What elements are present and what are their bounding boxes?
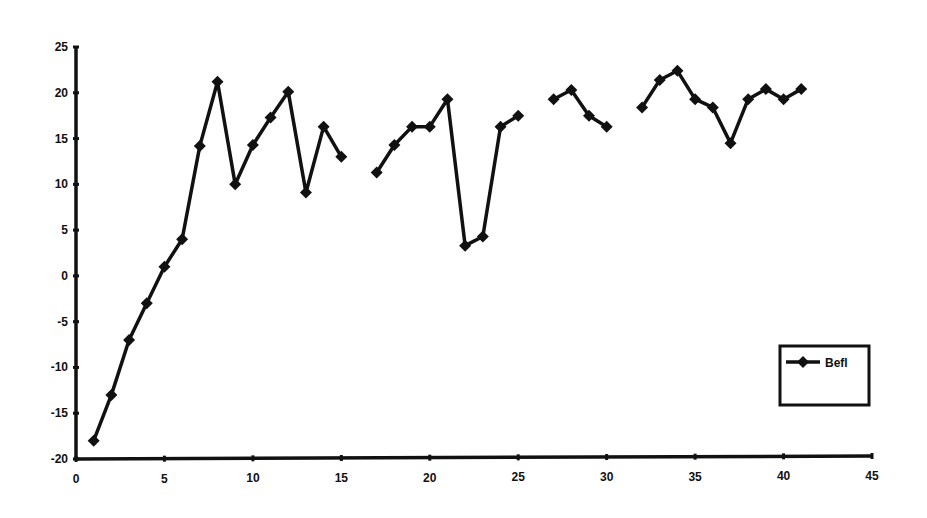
x-tick-label: 20 <box>423 471 437 485</box>
y-tick-label: 10 <box>55 177 69 191</box>
data-point-diamond-icon <box>194 140 206 152</box>
y-tick-label: 25 <box>55 40 69 54</box>
series-line <box>94 82 342 441</box>
series-line <box>642 71 801 143</box>
data-point-diamond-icon <box>123 334 135 346</box>
y-tick-label: -10 <box>51 360 69 374</box>
legend-label: Befl <box>825 356 848 370</box>
x-tick-label: 30 <box>600 470 614 484</box>
data-point-diamond-icon <box>105 389 117 401</box>
data-point-diamond-icon <box>141 297 153 309</box>
y-axis: 2520151050-5-10-15-20 <box>51 40 79 466</box>
series-befl <box>88 65 808 447</box>
y-tick-label: 5 <box>61 223 68 237</box>
x-tick-label: 5 <box>161 472 168 486</box>
legend-box <box>780 346 869 405</box>
y-tick-label: -5 <box>57 315 68 329</box>
y-tick-label: 0 <box>61 269 68 283</box>
x-axis: 051015202530354045 <box>73 453 879 486</box>
data-point-diamond-icon <box>707 101 719 113</box>
x-tick-label: 45 <box>865 469 879 483</box>
y-tick-label: -20 <box>51 452 69 466</box>
data-point-diamond-icon <box>548 93 560 105</box>
y-tick-label: -15 <box>51 406 69 420</box>
x-tick-label: 15 <box>335 471 349 485</box>
y-tick-label: 20 <box>55 86 69 100</box>
data-point-diamond-icon <box>477 231 489 243</box>
data-point-diamond-icon <box>724 137 736 149</box>
series-line <box>377 99 519 245</box>
y-tick-label: 15 <box>55 132 69 146</box>
line-chart: 2520151050-5-10-15-20 051015202530354045… <box>0 0 927 518</box>
x-tick-label: 40 <box>777 469 791 483</box>
data-point-diamond-icon <box>229 178 241 190</box>
x-tick-label: 10 <box>246 471 260 485</box>
data-point-diamond-icon <box>300 187 312 199</box>
x-tick-label: 25 <box>512 470 526 484</box>
x-tick-label: 0 <box>73 472 80 486</box>
data-point-diamond-icon <box>459 240 471 252</box>
data-point-diamond-icon <box>212 76 224 88</box>
data-point-diamond-icon <box>88 435 100 447</box>
legend: Befl <box>780 346 869 405</box>
series-line <box>554 90 607 127</box>
x-tick-label: 35 <box>688 470 702 484</box>
